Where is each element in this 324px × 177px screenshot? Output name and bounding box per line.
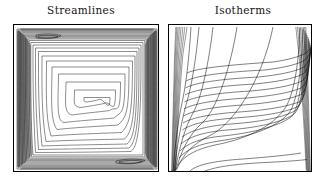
streamline-contours	[17, 29, 157, 169]
isotherms-contour-plot	[169, 25, 313, 173]
streamlines-contour-plot	[14, 25, 160, 173]
panel-streamlines: Streamlines	[0, 0, 162, 177]
plot-frame-isotherms	[168, 24, 312, 172]
panel-title-streamlines: Streamlines	[0, 4, 162, 16]
panel-title-isotherms: Isotherms	[162, 4, 324, 16]
isotherm-contours	[173, 27, 312, 172]
figure-canvas: Streamlines	[0, 0, 324, 177]
plot-frame-streamlines	[13, 24, 159, 172]
panel-isotherms: Isotherms	[162, 0, 324, 177]
